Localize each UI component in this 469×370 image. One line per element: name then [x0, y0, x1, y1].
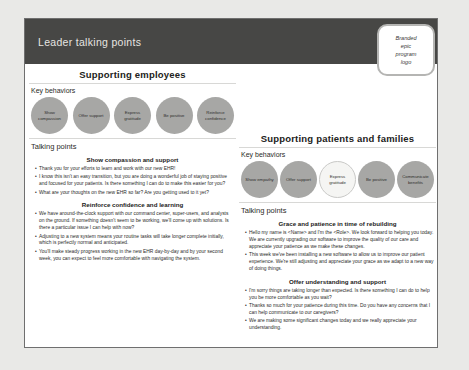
talking-points-group: Grace and patience in time of rebuilding…	[239, 220, 436, 273]
behavior-label: Show empathy	[245, 177, 273, 183]
talking-points-label: Talking points	[31, 142, 236, 151]
group-heading: Grace and patience in time of rebuilding	[239, 220, 436, 227]
talking-points-group: Show compassion and support Thank you fo…	[29, 156, 236, 196]
group-heading: Show compassion and support	[29, 156, 236, 163]
bullet-list: Thank you for your efforts to learn and …	[35, 166, 234, 196]
behavior-label: Show compassion	[34, 110, 65, 122]
divider	[29, 138, 236, 139]
bullet-item: Hello my name is <Name> and I'm the <Rol…	[245, 230, 434, 251]
section-title: Supporting patients and families	[239, 133, 436, 144]
talking-points-label: Talking points	[241, 206, 436, 215]
section-title: Supporting employees	[29, 69, 236, 80]
behavior-circle: Show empathy	[241, 161, 278, 198]
divider	[239, 147, 436, 148]
group-heading: Reinforce confidence and learning	[29, 201, 236, 208]
behavior-circle: Express gratitude	[114, 97, 151, 134]
key-behaviors-label: Key behaviors	[31, 87, 236, 94]
behavior-label: Express gratitude	[323, 174, 352, 186]
behavior-label: Offer support	[79, 113, 104, 119]
bullet-item: We are making some significant changes t…	[245, 318, 434, 332]
behavior-circle: Reinforce confidence	[197, 97, 234, 134]
behavior-circle: Show compassion	[31, 97, 68, 134]
bullet-list: Hello my name is <Name> and I'm the <Rol…	[245, 230, 434, 273]
behavior-label: Be positive	[163, 113, 184, 119]
bullet-item: Adjusting to a new system means your rou…	[35, 234, 234, 248]
behavior-circle: Be positive	[358, 161, 395, 198]
handout-card: Leader talking points Branded epic progr…	[24, 18, 438, 348]
key-behaviors-label: Key behaviors	[241, 151, 436, 158]
logo-line: logo	[401, 58, 412, 66]
bullet-item: I'm sorry things are taking longer than …	[245, 288, 434, 302]
group-heading: Offer understanding and support	[239, 278, 436, 285]
behavior-label: Offer support	[286, 177, 311, 183]
header-bar: Leader talking points	[25, 19, 437, 64]
logo-line: program	[396, 50, 417, 58]
behavior-circles: Show compassion Offer support Express gr…	[29, 97, 236, 134]
behavior-label: Be positive	[366, 177, 387, 183]
section-supporting-employees: Supporting employees Key behaviors Show …	[29, 69, 236, 264]
divider	[239, 202, 436, 203]
behavior-circle: Offer support	[73, 97, 110, 134]
bullet-item: You'll make steady progress working in t…	[35, 249, 234, 263]
bullet-item: Thank you for your efforts to learn and …	[35, 166, 234, 173]
branded-program-logo: Branded epic program logo	[377, 24, 435, 76]
behavior-label: Reinforce confidence	[200, 110, 231, 122]
talking-points-group: Reinforce confidence and learning We hav…	[29, 201, 236, 262]
logo-line: epic	[401, 42, 411, 50]
bullet-item: Thanks so much for your patience during …	[245, 303, 434, 317]
behavior-circle: Be positive	[156, 97, 193, 134]
behavior-label: Communicate benefits	[400, 174, 431, 186]
bullet-list: I'm sorry things are taking longer than …	[245, 288, 434, 332]
bullet-item: I know this isn't an easy transition, bu…	[35, 174, 234, 188]
talking-points-group: Offer understanding and support I'm sorr…	[239, 278, 436, 332]
behavior-circle: Offer support	[280, 161, 317, 198]
section-supporting-patients: Supporting patients and families Key beh…	[239, 133, 436, 333]
divider	[29, 83, 236, 84]
behavior-circle-highlighted: Express gratitude	[319, 161, 356, 198]
logo-line: Branded	[395, 34, 416, 42]
bullet-item: We have around-the-clock support with ou…	[35, 211, 234, 232]
bullet-list: We have around-the-clock support with ou…	[35, 211, 234, 262]
behavior-circle: Communicate benefits	[397, 161, 434, 198]
bullet-item: This week we've been installing a new so…	[245, 252, 434, 273]
behavior-label: Express gratitude	[117, 110, 148, 122]
bullet-item: What are your thoughts on the new EHR so…	[35, 190, 234, 197]
page-title: Leader talking points	[25, 36, 141, 48]
behavior-circles: Show empathy Offer support Express grati…	[239, 161, 436, 198]
